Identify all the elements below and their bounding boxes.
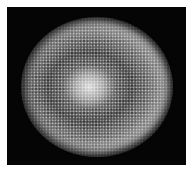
colony-rim (19, 15, 175, 159)
colony-disc (21, 17, 173, 157)
photo-frame (7, 7, 186, 165)
